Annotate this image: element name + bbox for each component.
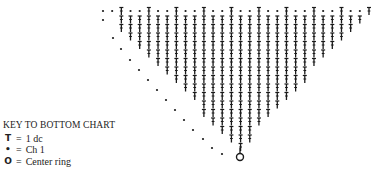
chain-dot-icon — [304, 10, 306, 12]
chain-dot-icon — [194, 10, 196, 12]
chain-dot-icon — [147, 79, 149, 81]
chart-key: KEY TO BOTTOM CHART T = 1 dc • = Ch 1 O … — [3, 120, 115, 167]
chain-dot-icon — [157, 10, 159, 12]
chain-dot-icon — [102, 19, 104, 21]
chain-dot-icon — [192, 129, 194, 131]
chain-dot-icon — [120, 48, 122, 50]
chain-dot-icon — [165, 99, 167, 101]
chain-dot-icon — [202, 138, 204, 140]
key-item-ch: • = Ch 1 — [3, 144, 115, 156]
chain-dot-icon — [295, 10, 297, 12]
center-ring-icon — [237, 154, 244, 161]
chain-dot-icon — [174, 109, 176, 111]
key-label-ring: Center ring — [26, 156, 71, 168]
chain-dot-icon — [212, 10, 214, 12]
chain-dot-icon — [331, 10, 333, 12]
key-label-ch: Ch 1 — [26, 144, 45, 156]
chain-dot-icon — [359, 10, 361, 12]
key-label-dc: 1 dc — [26, 133, 43, 145]
chain-dot-icon — [129, 59, 131, 61]
chain-dot-icon — [239, 10, 241, 12]
chain-dot-icon — [138, 69, 140, 71]
chain-dot-icon — [156, 89, 158, 91]
double-crochet-icon: T — [3, 133, 13, 145]
chain-dot-icon — [267, 10, 269, 12]
chain-dot-icon: • — [3, 144, 13, 156]
chain-dot-icon — [184, 10, 186, 12]
key-item-ring: O = Center ring — [3, 156, 115, 168]
chain-dot-icon — [276, 10, 278, 12]
chain-dot-icon — [221, 153, 223, 155]
chain-dot-icon — [139, 10, 141, 12]
chain-dot-icon — [129, 10, 131, 12]
chain-dot-icon — [166, 10, 168, 12]
chain-dot-icon — [111, 10, 113, 12]
chain-dot-icon — [112, 37, 114, 39]
key-item-dc: T = 1 dc — [3, 133, 115, 145]
chain-dot-icon — [221, 10, 223, 12]
chain-dot-icon — [183, 119, 185, 121]
chain-dot-icon — [322, 10, 324, 12]
chain-dot-icon — [249, 10, 251, 12]
chain-dot-icon — [102, 10, 104, 12]
chain-dot-icon — [211, 147, 213, 149]
center-ring-icon: O — [3, 156, 13, 168]
key-title: KEY TO BOTTOM CHART — [3, 120, 115, 132]
chain-dot-icon — [350, 10, 352, 12]
